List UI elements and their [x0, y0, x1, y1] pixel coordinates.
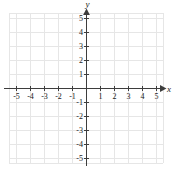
y-tick-label: 2 — [79, 57, 83, 65]
x-tick-label: -4 — [27, 93, 34, 101]
y-tick-label: 3 — [79, 43, 83, 51]
y-axis-arrowhead — [83, 9, 90, 16]
y-tick-label: -2 — [76, 113, 83, 121]
x-tick-label: 3 — [127, 93, 131, 101]
y-tick-label: -4 — [76, 141, 83, 149]
coordinate-plane: -5-4-3-2-112345 54321-1-2-3-4-5 x y — [0, 0, 173, 172]
x-tick-label: 1 — [99, 93, 103, 101]
y-tick-label: 4 — [79, 29, 83, 37]
x-tick-label: 4 — [141, 93, 145, 101]
x-tick-label: -2 — [55, 93, 62, 101]
grid-and-axes — [0, 0, 173, 172]
y-tick-label: 1 — [79, 71, 83, 79]
x-tick-label: 5 — [155, 93, 159, 101]
y-tick-label: -3 — [76, 127, 83, 135]
y-tick-label: 5 — [79, 15, 83, 23]
y-tick-label: -5 — [76, 155, 83, 163]
x-tick-label: -3 — [41, 93, 48, 101]
x-tick-label: -1 — [69, 93, 76, 101]
y-axis-label: y — [86, 0, 90, 9]
x-tick-label: -5 — [13, 93, 20, 101]
x-tick-label: 2 — [113, 93, 117, 101]
y-tick-label: -1 — [76, 99, 83, 107]
x-axis-label: x — [167, 84, 171, 93]
